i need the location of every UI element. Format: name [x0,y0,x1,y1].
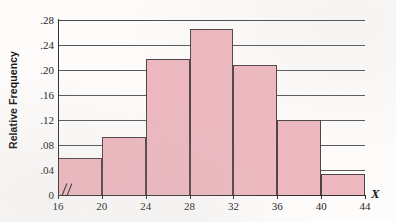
y-tick-label: .28 [40,14,54,26]
x-tick-label: 24 [140,200,151,212]
histogram-bar [190,29,234,195]
x-axis-tick-labels: 1620242832364044 [58,195,378,222]
x-tick-label: 44 [360,200,371,212]
x-tick-mark [277,195,278,199]
x-tick-mark [58,195,59,199]
x-tick-mark [365,195,366,199]
histogram-bar [321,174,365,195]
x-tick-label: 40 [316,200,327,212]
y-tick-label: .12 [40,114,54,126]
y-tick-label: .24 [40,39,54,51]
histogram-bar [233,65,277,195]
y-axis-tick-labels: 0.04.08.12.16.20.24.28 [24,0,54,222]
x-tick-label: 16 [53,200,64,212]
x-axis-title: X [371,186,380,202]
relative-frequency-histogram-figure: Relative Frequency 0.04.08.12.16.20.24.2… [0,0,396,222]
y-tick-label: .04 [40,164,54,176]
y-axis-title-text: Relative Frequency [7,51,19,149]
y-tick-label: .20 [40,64,54,76]
y-tick-label: .16 [40,89,54,101]
y-axis-title: Relative Frequency [2,0,24,200]
histogram-bar [146,59,190,195]
x-tick-label: 36 [272,200,283,212]
histogram-bar [102,137,146,195]
y-tick-label: .08 [40,139,54,151]
x-tick-label: 32 [228,200,239,212]
y-axis-line [58,19,59,196]
axis-break-slash-2 [67,183,73,195]
x-tick-mark [102,195,103,199]
x-tick-mark [233,195,234,199]
plot-area [58,20,365,195]
gridline-p28 [58,20,365,21]
histogram-bar [277,120,321,195]
x-tick-label: 20 [96,200,107,212]
x-tick-label: 28 [184,200,195,212]
x-tick-mark [190,195,191,199]
x-tick-mark [146,195,147,199]
x-tick-mark [321,195,322,199]
